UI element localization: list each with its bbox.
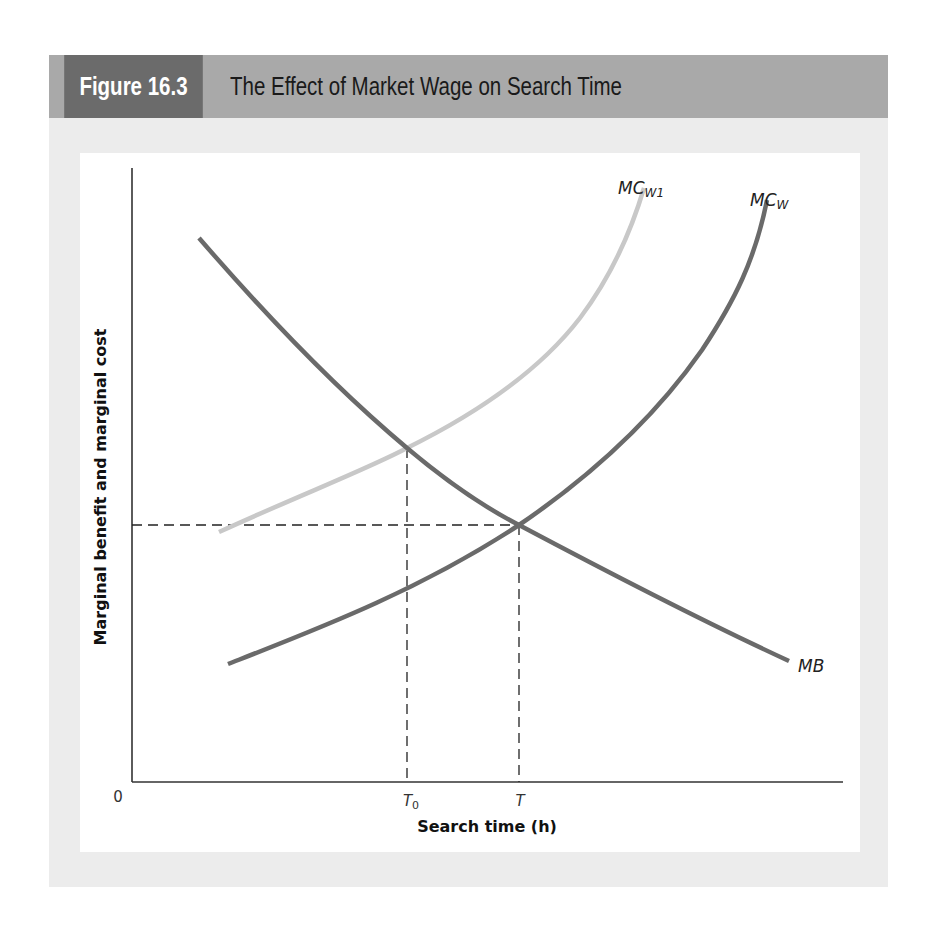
curve-mb (199, 238, 789, 661)
label-mb: MB (798, 656, 824, 676)
chart-svg (0, 0, 934, 927)
label-mcw: MCW (750, 190, 788, 212)
label-mcw1: MCW1 (618, 178, 664, 200)
curve-mcw (228, 200, 767, 664)
x-axis-label: Search time (h) (417, 817, 557, 836)
y-axis-label: Marginal benefit and marginal cost (91, 329, 110, 646)
origin-label: 0 (113, 788, 123, 806)
tick-t0: T0 (403, 792, 419, 812)
tick-t: T (515, 792, 524, 810)
